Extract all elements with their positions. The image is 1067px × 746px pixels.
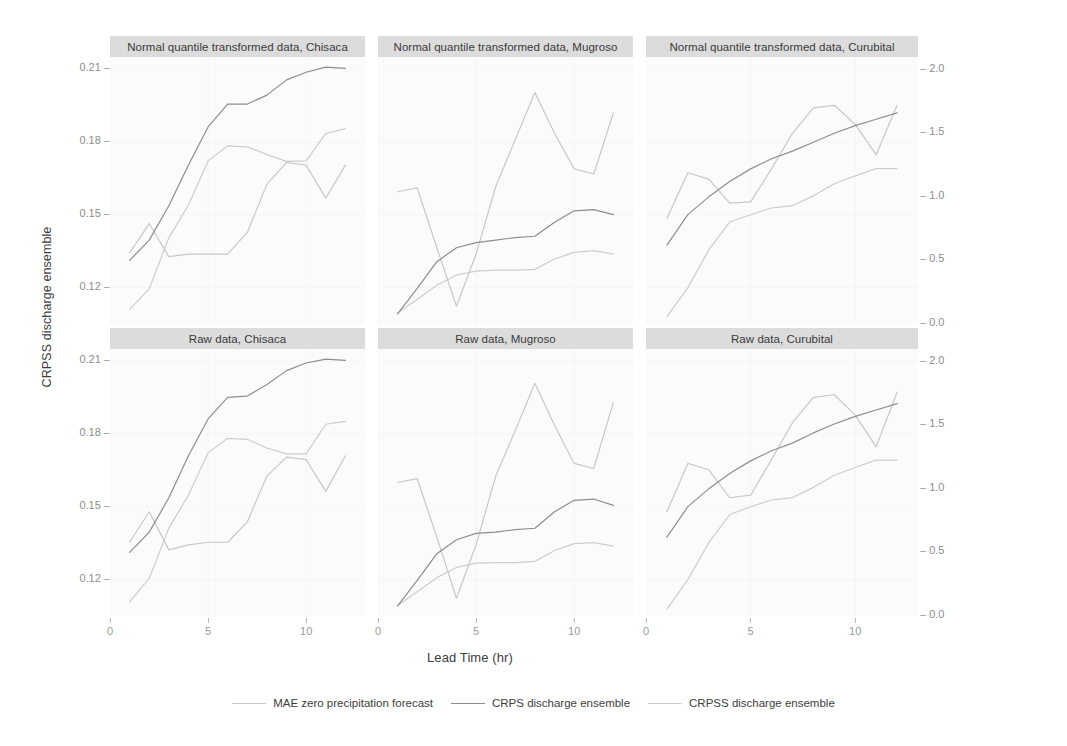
panel-plot-area bbox=[646, 57, 918, 324]
x-axis-group: 0510 bbox=[646, 618, 918, 648]
y-axis-left-tick-label: 0.12 – bbox=[79, 280, 110, 292]
facet-panel: Raw data, Mugroso bbox=[378, 328, 633, 616]
series-line bbox=[667, 392, 897, 512]
panel-plot-area bbox=[378, 57, 633, 324]
y-axis-right-tick-label: – 2.0 bbox=[920, 62, 944, 74]
y-axis-right-tick-label: – 1.0 bbox=[920, 481, 944, 493]
series-line bbox=[130, 359, 346, 552]
facet-panel: Normal quantile transformed data, Chisac… bbox=[110, 36, 365, 324]
y-axis-left: 0.21 –0.21 –0.18 –0.18 –0.15 –0.15 –0.12… bbox=[62, 0, 110, 746]
legend-item[interactable]: CRPS discharge ensemble bbox=[451, 697, 630, 709]
y-axis-left-tick-label: 0.12 – bbox=[79, 572, 110, 584]
panel-strip: Raw data, Chisaca bbox=[110, 328, 365, 349]
panel-gridlines bbox=[646, 57, 918, 324]
y-axis-right-tick-label: – 2.0 bbox=[920, 354, 944, 366]
series-line bbox=[667, 404, 897, 537]
panel-gridlines bbox=[646, 349, 918, 616]
x-axis-tick: 10 bbox=[849, 618, 861, 637]
y-axis-left-tick-label: 0.21 – bbox=[79, 353, 110, 365]
panel-strip: Normal quantile transformed data, Chisac… bbox=[110, 36, 365, 57]
y-axis-right-tick-label: – 1.0 bbox=[920, 189, 944, 201]
x-axis-tick: 5 bbox=[205, 618, 211, 637]
y-axis-right-tick-label: – 1.5 bbox=[920, 417, 944, 429]
x-axis-tick: 5 bbox=[473, 618, 479, 637]
x-axis-tick: 0 bbox=[107, 618, 113, 637]
series-line bbox=[130, 67, 346, 260]
panel-strip-label: Normal quantile transformed data, Curubi… bbox=[669, 41, 894, 53]
y-axis-right-tick-label: – 0.0 bbox=[920, 316, 944, 328]
legend-item[interactable]: MAE zero precipitation forecast bbox=[232, 697, 433, 709]
panel-strip-label: Normal quantile transformed data, Chisac… bbox=[127, 41, 348, 53]
panel-gridlines bbox=[110, 57, 365, 324]
series-line bbox=[667, 105, 897, 218]
panel-strip-label: Raw data, Curubital bbox=[731, 333, 833, 345]
legend-line-icon bbox=[451, 703, 485, 704]
panel-strip-label: Normal quantile transformed data, Mugros… bbox=[394, 41, 618, 53]
y-axis-left-title: CRPSS discharge ensemble bbox=[40, 142, 54, 472]
x-axis: 051005100510 bbox=[110, 618, 918, 648]
x-axis-group: 0510 bbox=[378, 618, 633, 648]
y-axis-right-tick-label: – 0.5 bbox=[920, 252, 944, 264]
y-axis-right-tick-label: – 1.5 bbox=[920, 125, 944, 137]
panel-gridlines bbox=[378, 349, 633, 616]
y-axis-left-tick-label: 0.15 – bbox=[79, 499, 110, 511]
panel-plot-area bbox=[646, 349, 918, 616]
series-line bbox=[130, 456, 346, 550]
y-axis-right: – 2.0– 2.0– 1.5– 1.5– 1.0– 1.0– 0.5– 0.5… bbox=[920, 0, 970, 746]
y-axis-left-tick-label: 0.15 – bbox=[79, 207, 110, 219]
series-line bbox=[667, 169, 897, 317]
x-axis-tick: 10 bbox=[300, 618, 312, 637]
series-line bbox=[398, 251, 614, 313]
x-axis-group: 0510 bbox=[110, 618, 365, 648]
panel-strip: Normal quantile transformed data, Curubi… bbox=[646, 36, 918, 57]
series-line bbox=[398, 543, 614, 606]
panel-row: Raw data, ChisacaRaw data, MugrosoRaw da… bbox=[110, 328, 918, 616]
panel-plot-area bbox=[110, 349, 365, 616]
facet-panel: Normal quantile transformed data, Curubi… bbox=[646, 36, 918, 324]
panel-strip-label: Raw data, Chisaca bbox=[189, 333, 286, 345]
legend-item-label: MAE zero precipitation forecast bbox=[273, 697, 433, 709]
panel-row: Normal quantile transformed data, Chisac… bbox=[110, 36, 918, 324]
facet-panel: Raw data, Chisaca bbox=[110, 328, 365, 616]
legend-item[interactable]: CRPSS discharge ensemble bbox=[648, 697, 835, 709]
panel-strip: Raw data, Mugroso bbox=[378, 328, 633, 349]
x-axis-tick: 10 bbox=[568, 618, 580, 637]
panel-strip-label: Raw data, Mugroso bbox=[455, 333, 556, 345]
figure-root: 0.21 –0.21 –0.18 –0.18 –0.15 –0.15 –0.12… bbox=[0, 0, 1067, 746]
panel-strip: Normal quantile transformed data, Mugros… bbox=[378, 36, 633, 57]
legend-line-icon bbox=[232, 703, 266, 704]
series-line bbox=[130, 129, 346, 310]
panel-gridlines bbox=[378, 57, 633, 324]
panel-gridlines bbox=[110, 349, 365, 616]
series-line bbox=[667, 460, 897, 609]
series-line bbox=[398, 383, 614, 598]
facet-panel: Raw data, Curubital bbox=[646, 328, 918, 616]
x-axis-tick: 0 bbox=[375, 618, 381, 637]
x-axis-tick: 5 bbox=[748, 618, 754, 637]
y-axis-left-tick-label: 0.18 – bbox=[79, 426, 110, 438]
panel-strip: Raw data, Curubital bbox=[646, 328, 918, 349]
facet-panel: Normal quantile transformed data, Mugros… bbox=[378, 36, 633, 324]
panel-plot-area bbox=[110, 57, 365, 324]
series-line bbox=[130, 163, 346, 257]
legend-item-label: CRPSS discharge ensemble bbox=[689, 697, 835, 709]
series-line bbox=[130, 421, 346, 602]
y-axis-right-tick-label: – 0.5 bbox=[920, 544, 944, 556]
legend-item-label: CRPS discharge ensemble bbox=[492, 697, 630, 709]
panel-grid: Normal quantile transformed data, Chisac… bbox=[110, 36, 918, 616]
legend-line-icon bbox=[648, 703, 682, 704]
series-line bbox=[667, 113, 897, 245]
legend: MAE zero precipitation forecastCRPS disc… bbox=[0, 688, 1067, 718]
y-axis-right-tick-label: – 0.0 bbox=[920, 608, 944, 620]
x-axis-tick: 0 bbox=[643, 618, 649, 637]
y-axis-left-tick-label: 0.18 – bbox=[79, 134, 110, 146]
series-line bbox=[398, 93, 614, 307]
panel-plot-area bbox=[378, 349, 633, 616]
y-axis-left-tick-label: 0.21 – bbox=[79, 61, 110, 73]
x-axis-title: Lead Time (hr) bbox=[0, 650, 940, 665]
